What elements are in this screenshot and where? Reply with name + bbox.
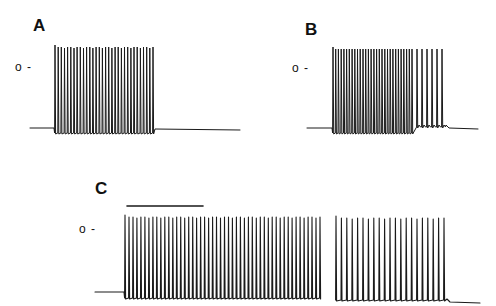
voltage-traces — [0, 0, 496, 306]
trace-c-segment-1 — [95, 215, 321, 299]
trace-b — [307, 47, 478, 134]
trace-c-segment-2 — [336, 216, 480, 303]
trace-a — [30, 45, 240, 134]
